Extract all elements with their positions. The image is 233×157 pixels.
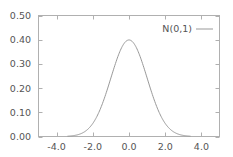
y-tick-label: 0.40: [10, 34, 31, 45]
y-tick-label: 0.20: [10, 83, 31, 94]
legend-label: N(0,1): [162, 23, 192, 34]
x-tick-label: 2.0: [158, 141, 173, 152]
y-tick-label: 0.30: [10, 58, 31, 69]
x-tick-label: -2.0: [84, 141, 103, 152]
y-tick-label: 0.50: [10, 10, 31, 21]
y-axis-tick-labels: 0.000.100.200.300.400.50: [10, 10, 31, 142]
x-tick-label: 4.0: [194, 141, 209, 152]
y-tick-label: 0.10: [10, 107, 31, 118]
plot-frame: [39, 16, 220, 137]
normal-pdf-curve: [67, 40, 190, 136]
x-axis-tick-labels: -4.0-2.00.02.04.0: [47, 141, 209, 152]
x-tick-label: 0.0: [121, 141, 136, 152]
y-axis-ticks: [39, 17, 220, 138]
legend: N(0,1): [162, 23, 213, 34]
y-tick-label: 0.00: [10, 131, 31, 142]
chart: -4.0-2.00.02.04.0 0.000.100.200.300.400.…: [0, 0, 233, 157]
x-tick-label: -4.0: [47, 141, 66, 152]
